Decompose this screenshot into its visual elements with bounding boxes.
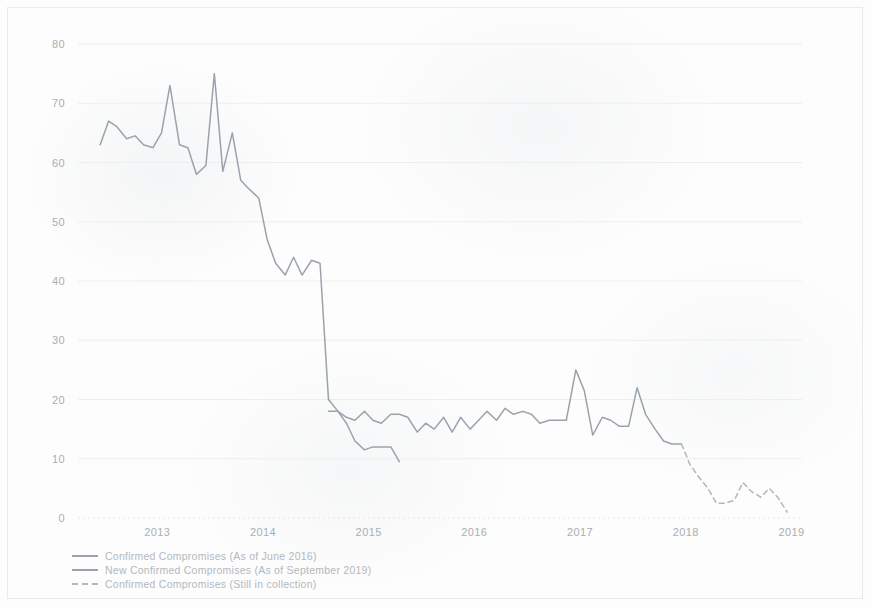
x-axis-tick-label: 2018 — [673, 526, 699, 538]
legend-label: New Confirmed Compromises (As of Septemb… — [105, 564, 371, 576]
y-axis-tick-label: 0 — [58, 512, 65, 524]
y-axis-tick-label: 40 — [52, 275, 65, 287]
legend-label: Confirmed Compromises (As of June 2016) — [105, 550, 317, 562]
legend-swatch-icon — [72, 555, 98, 557]
y-axis-tick-label: 70 — [52, 97, 65, 109]
x-axis-tick-label: 2016 — [461, 526, 487, 538]
legend-swatch-icon — [72, 569, 98, 571]
series-line-solid — [100, 74, 399, 462]
x-axis-tick-labels: 2013201420152016201720182019 — [144, 526, 804, 538]
chart-svg: 01020304050607080 2013201420152016201720… — [0, 0, 872, 608]
series-line-dashed — [682, 444, 788, 512]
legend-item: New Confirmed Compromises (As of Septemb… — [72, 563, 492, 576]
y-axis-tick-label: 60 — [52, 157, 65, 169]
legend-item: Confirmed Compromises (As of June 2016) — [72, 549, 492, 562]
y-axis-tick-label: 80 — [52, 38, 65, 50]
line-chart: 01020304050607080 2013201420152016201720… — [0, 0, 872, 608]
series-line-solid — [328, 370, 681, 444]
chart-page: 01020304050607080 2013201420152016201720… — [0, 0, 872, 608]
data-series-group — [100, 74, 787, 512]
legend-label: Confirmed Compromises (Still in collecti… — [105, 578, 316, 590]
legend-item: Confirmed Compromises (Still in collecti… — [72, 577, 492, 590]
y-axis-tick-label: 10 — [52, 453, 65, 465]
x-axis-tick-label: 2019 — [778, 526, 804, 538]
x-axis-tick-label: 2015 — [356, 526, 382, 538]
gridlines — [78, 44, 802, 459]
x-axis-tick-label: 2017 — [567, 526, 593, 538]
chart-legend: Confirmed Compromises (As of June 2016) … — [72, 549, 492, 591]
legend-swatch-dashed-icon — [72, 583, 98, 585]
x-axis-tick-label: 2014 — [250, 526, 276, 538]
y-axis-tick-label: 50 — [52, 216, 65, 228]
y-axis-tick-label: 20 — [52, 394, 65, 406]
x-axis-tick-label: 2013 — [144, 526, 170, 538]
y-axis-tick-labels: 01020304050607080 — [52, 38, 65, 524]
y-axis-tick-label: 30 — [52, 334, 65, 346]
